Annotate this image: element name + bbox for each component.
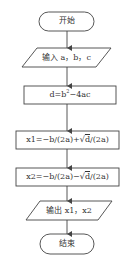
x1-prefix: x1=−b/(2a)+√ <box>26 135 85 144</box>
compute-x2-label: x2=−b/(2a)−√d/(2a) <box>16 172 119 182</box>
start-label: 开始 <box>39 16 94 26</box>
end-label: 结束 <box>40 239 94 249</box>
x1-suffix: /(2a) <box>90 135 109 144</box>
compute-d-label: d=b2−4ac <box>24 90 116 100</box>
x2-prefix: x2=−b/(2a)−√ <box>26 172 85 181</box>
output-label: 输出 x1，x2 <box>26 206 112 216</box>
flowchart-canvas <box>0 0 131 266</box>
x2-suffix: /(2a) <box>90 172 109 181</box>
compute-x1-label: x1=−b/(2a)+√d/(2a) <box>16 135 119 145</box>
d-suffix: −4ac <box>70 90 91 99</box>
input-label: 输入 a，b，c <box>22 53 111 63</box>
d-prefix: d=b <box>49 90 66 99</box>
